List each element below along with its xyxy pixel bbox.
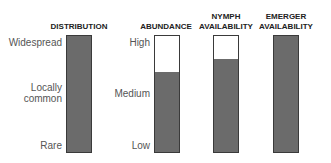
tick-locally-common: Locally common [0, 82, 62, 104]
distribution-title: DISTRIBUTION [50, 22, 108, 32]
tick-widespread: Widespread [0, 37, 62, 48]
nymph-title: NYMPH AVAILABILITY [196, 12, 256, 32]
nymph-fill [214, 59, 238, 152]
emerger-title: EMERGER AVAILABILITY [256, 12, 316, 32]
tick-rare: Rare [0, 140, 62, 151]
emerger-bar [273, 35, 299, 153]
tick-high: High [110, 37, 150, 48]
abundance-bar [154, 35, 180, 153]
emerger-fill [274, 36, 298, 152]
distribution-fill [67, 36, 91, 152]
nymph-bar [213, 35, 239, 153]
abundance-fill [155, 72, 179, 152]
tick-medium: Medium [110, 88, 150, 99]
tick-low: Low [110, 140, 150, 151]
distribution-bar [66, 35, 92, 153]
abundance-title: ABUNDANCE [138, 22, 194, 32]
